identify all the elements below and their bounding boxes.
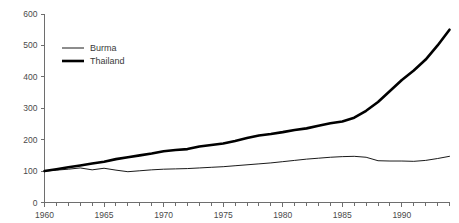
line-chart: 0100200300400500600 19601965197019751980… [0, 0, 459, 223]
x-tick-label: 1965 [95, 210, 114, 220]
y-tick-label: 400 [23, 72, 37, 82]
chart-legend: BurmaThailand [62, 43, 125, 66]
y-tick-label: 600 [23, 9, 37, 19]
x-tick-label: 1990 [392, 210, 411, 220]
x-tick-label: 1960 [35, 210, 54, 220]
y-axis: 0100200300400500600 [23, 9, 44, 208]
x-tick-label: 1975 [214, 210, 233, 220]
x-tick-label: 1980 [273, 210, 292, 220]
x-axis: 1960196519701975198019851990 [35, 203, 449, 220]
y-tick-group [41, 14, 45, 203]
series-line-burma [45, 156, 450, 171]
x-tick-group [45, 203, 402, 208]
y-tick-label-group: 0100200300400500600 [23, 9, 37, 208]
y-tick-label: 200 [23, 135, 37, 145]
y-tick-label: 100 [23, 166, 37, 176]
x-tick-label: 1985 [333, 210, 352, 220]
x-tick-label: 1970 [154, 210, 173, 220]
legend-label-burma: Burma [90, 43, 117, 53]
y-tick-label: 500 [23, 40, 37, 50]
x-tick-label-group: 1960196519701975198019851990 [35, 210, 412, 220]
y-tick-label: 300 [23, 103, 37, 113]
chart-canvas: 0100200300400500600 19601965197019751980… [0, 0, 459, 223]
y-tick-label: 0 [33, 198, 38, 208]
legend-label-thailand: Thailand [90, 56, 125, 66]
